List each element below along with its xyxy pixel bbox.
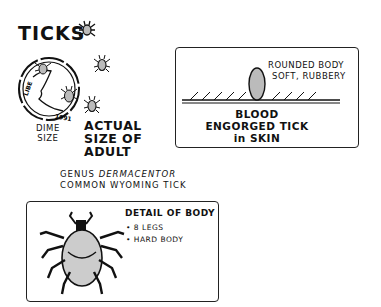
dime-label-line1: DIME (36, 123, 60, 133)
detail-bullets: • 8 LEGS • HARD BODY (126, 222, 183, 246)
genus-common-name: COMMON WYOMING TICK (60, 180, 187, 191)
actual-size-tick-2 (83, 95, 101, 115)
caption-line3: in SKIN (202, 132, 312, 144)
caption-line1: BLOOD (202, 108, 312, 120)
tick-body-detail-icon (38, 212, 128, 298)
page-title: TICKS (18, 22, 85, 44)
detail-heading: DETAIL OF BODY (125, 208, 215, 218)
genus-caption: GENUS DERMACENTOR COMMON WYOMING TICK (60, 169, 187, 191)
rounded-body-annotation: ROUNDED BODY SOFT, RUBBERY (268, 60, 346, 82)
dime-label-line2: SIZE (36, 133, 60, 143)
caption-line2: ENGORGED TICK (202, 120, 312, 132)
bullet-item: • HARD BODY (126, 234, 183, 246)
genus-prefix: GENUS (60, 169, 95, 179)
bullet-item: • 8 LEGS (126, 222, 183, 234)
engorged-caption: BLOOD ENGORGED TICK in SKIN (202, 108, 312, 144)
dime-size-label: DIME SIZE (36, 123, 60, 143)
annotation-line1: ROUNDED BODY (268, 60, 346, 71)
actual-line3: ADULT (84, 145, 142, 158)
actual-size-tick-1 (93, 54, 111, 74)
actual-size-label: ACTUAL SIZE OF ADULT (84, 119, 142, 158)
dime-illustration: LIBE 1991 (15, 55, 85, 123)
title-tick-icon (78, 20, 96, 38)
tick-on-dime-1 (35, 63, 51, 74)
bullet-text: 8 LEGS (134, 223, 164, 232)
genus-name: DERMACENTOR (99, 169, 176, 179)
annotation-line2: SOFT, RUBBERY (268, 71, 346, 82)
svg-text:1991: 1991 (55, 112, 73, 122)
bullet-text: HARD BODY (134, 235, 184, 244)
